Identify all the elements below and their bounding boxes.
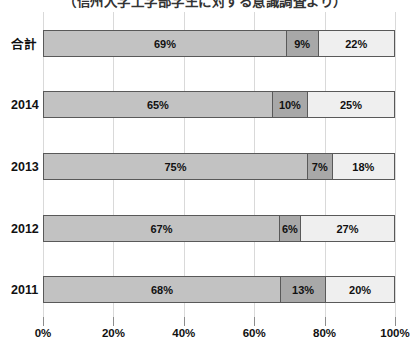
bar-segment-2012-1: 67% [43,215,279,242]
data-label: 67% [150,223,172,235]
bar-row-2014: 65%10%25% [43,91,395,118]
bar-row-合計: 69%9%22% [43,30,395,57]
chart-title: （信州大学工学部学生に対する意識調査より） [0,0,410,10]
bar-segment-2011-3: 20% [325,276,395,303]
category-label-2013: 2013 [11,153,43,180]
bar-row-2011: 68%13%20% [43,276,395,303]
data-label: 13% [292,284,314,296]
bar-row-2012: 67%6%27% [43,215,395,242]
bar-segment-2014-3: 25% [307,91,395,118]
gridline-100 [395,12,396,322]
x-axis-label-80: 80% [313,327,336,339]
x-axis-tick-0 [43,317,44,326]
x-axis-tick-60 [254,317,255,326]
bar-segment-2013-1: 75% [43,153,307,180]
stacked-bar-chart: （信州大学工学部学生に対する意識調査より） 69%9%22%65%10%25%7… [0,0,410,358]
data-label: 20% [349,284,371,296]
bar-segment-合計-1: 69% [43,30,286,57]
data-label: 18% [352,161,374,173]
bar-segment-合計-3: 22% [318,30,395,57]
x-axis-label-0: 0% [35,327,52,339]
x-axis-label-60: 60% [243,327,266,339]
x-axis-label-20: 20% [102,327,125,339]
data-label: 75% [164,161,186,173]
bar-segment-2013-2: 7% [307,153,332,180]
bar-segment-2011-1: 68% [43,276,280,303]
category-label-2014: 2014 [11,91,43,118]
category-label-2012: 2012 [11,215,43,242]
plot-area: 69%9%22%65%10%25%75%7%18%67%6%27%68%13%2… [43,12,395,322]
category-label-合計: 合計 [11,30,43,57]
data-label: 65% [147,99,169,111]
x-axis-label-40: 40% [172,327,195,339]
bar-segment-2011-2: 13% [280,276,325,303]
bar-segment-2012-3: 27% [300,215,395,242]
data-label: 22% [345,38,367,50]
data-label: 10% [279,99,301,111]
bar-segment-合計-2: 9% [286,30,318,57]
x-axis-tick-100 [395,317,396,326]
bar-segment-2014-2: 10% [272,91,307,118]
data-label: 69% [154,38,176,50]
data-label: 7% [312,161,328,173]
data-label: 6% [282,223,298,235]
data-label: 25% [340,99,362,111]
bar-row-2013: 75%7%18% [43,153,395,180]
x-axis-tick-40 [184,317,185,326]
data-label: 27% [336,223,358,235]
x-axis-tick-80 [325,317,326,326]
x-axis-label-100: 100% [380,327,409,339]
category-label-2011: 2011 [11,276,43,303]
bar-segment-2013-3: 18% [332,153,395,180]
data-label: 68% [151,284,173,296]
bar-segment-2012-2: 6% [279,215,300,242]
bar-segment-2014-1: 65% [43,91,272,118]
x-axis-tick-20 [113,317,114,326]
data-label: 9% [294,38,310,50]
